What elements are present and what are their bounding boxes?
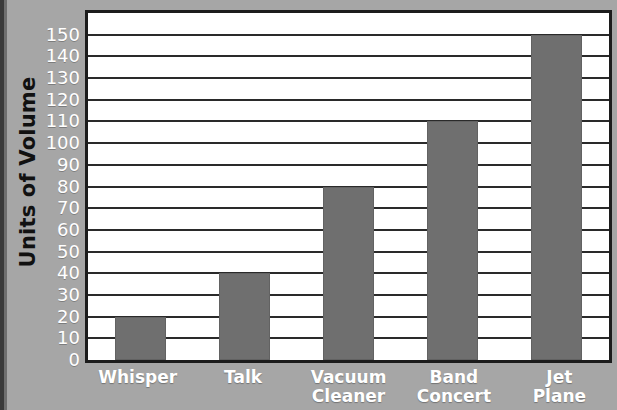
y-axis-tick-label: 130 [30,69,80,87]
x-axis-label: Talk [190,366,295,410]
x-axis-label-line: Whisper [85,368,190,387]
x-axis-label-line: Jet [507,368,612,387]
y-axis-tick-label: 60 [30,221,80,239]
y-axis-tick-label: 90 [30,156,80,174]
y-axis-tick-label: 140 [30,47,80,65]
bar-slot [401,13,505,360]
plot-area [85,10,612,363]
y-axis-tick-label: 40 [30,264,80,282]
bars-layer [88,13,609,360]
y-axis-tick-label: 30 [30,286,80,304]
x-axis-label: Whisper [85,366,190,410]
x-axis-label-line: Band [401,368,506,387]
bar-slot [505,13,609,360]
y-axis-tick-labels: 0102030405060708090100110120130140150 [30,33,80,363]
bar[interactable] [219,273,270,360]
y-axis-tick-label: 0 [30,351,80,369]
x-axis-label-line: Talk [190,368,295,387]
y-axis-tick-label: 10 [30,329,80,347]
bar[interactable] [427,121,478,360]
x-axis-label: VacuumCleaner [296,366,401,410]
y-axis-tick-label: 100 [30,134,80,152]
y-axis-tick-label: 70 [30,199,80,217]
y-axis-tick-label: 150 [30,26,80,44]
x-axis-label-line: Vacuum [296,368,401,387]
x-axis-label-line: Plane [507,387,612,406]
x-axis-label-line: Cleaner [296,387,401,406]
bar-slot [88,13,192,360]
y-axis-tick-label: 50 [30,243,80,261]
x-axis-category-labels: WhisperTalkVacuumCleanerBandConcertJetPl… [85,366,612,410]
bar[interactable] [531,35,582,360]
x-axis-label: JetPlane [507,366,612,410]
bar-slot [192,13,296,360]
y-axis-tick-label: 120 [30,91,80,109]
bar-chart: Units of Volume 010203040506070809010011… [0,0,617,410]
y-axis-tick-label: 20 [30,308,80,326]
x-axis-label: BandConcert [401,366,506,410]
bar[interactable] [323,187,374,361]
y-axis-tick-label: 110 [30,112,80,130]
x-axis-label-line: Concert [401,387,506,406]
bar[interactable] [115,317,166,360]
y-axis-tick-label: 80 [30,178,80,196]
bar-slot [296,13,400,360]
